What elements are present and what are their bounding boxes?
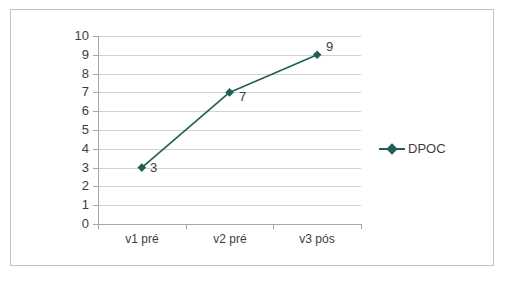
data-point-value-label: 9	[326, 40, 333, 53]
chart-canvas: 109876543210 v1 prév2 prév3 pós 379 DPOC	[11, 10, 495, 267]
diamond-marker-icon	[379, 143, 405, 155]
legend-item-label: DPOC	[408, 142, 446, 155]
caption-fragment	[12, 276, 312, 285]
chart-legend: DPOC	[379, 142, 446, 155]
series-line-dpoc	[11, 10, 495, 267]
chart-figure-frame: 109876543210 v1 prév2 prév3 pós 379 DPOC	[10, 9, 494, 266]
data-point-value-label: 3	[150, 161, 157, 174]
legend-diamond-glyph	[386, 143, 397, 154]
data-point-value-label: 7	[239, 90, 246, 103]
data-point-marker	[313, 51, 322, 60]
